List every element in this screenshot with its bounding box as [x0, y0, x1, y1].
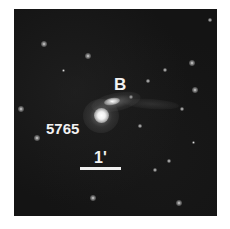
star — [18, 106, 24, 112]
star — [34, 135, 40, 141]
galaxy-main-core — [94, 108, 109, 123]
star — [138, 124, 142, 128]
star — [189, 60, 195, 66]
star — [85, 53, 91, 59]
star — [62, 69, 65, 72]
star — [208, 18, 212, 22]
galaxy-companion-label: B — [114, 76, 126, 93]
star — [90, 195, 96, 201]
scale-bar — [80, 167, 121, 170]
sky-image: B 5765 1' — [14, 9, 217, 216]
scale-bar-label: 1' — [94, 150, 107, 166]
star — [146, 79, 150, 83]
star — [192, 141, 195, 144]
galaxy-main-label: 5765 — [46, 121, 79, 136]
star — [176, 200, 182, 206]
star — [41, 41, 47, 47]
star — [192, 87, 198, 93]
